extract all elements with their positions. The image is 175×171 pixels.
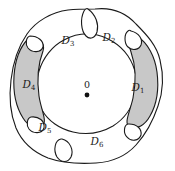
region-label-D6-subscript: 6 bbox=[99, 141, 104, 149]
region-ring-diagram: 0 D1 D2 D3 D4 D5 D6 bbox=[0, 0, 175, 171]
region-label-D4-subscript: 4 bbox=[31, 84, 36, 92]
region-label-D2-subscript: 2 bbox=[111, 37, 115, 45]
region-label-D1-subscript: 1 bbox=[140, 87, 144, 95]
center-dot-marker bbox=[85, 93, 90, 98]
region-label-D3-subscript: 3 bbox=[70, 40, 74, 48]
center-origin-label: 0 bbox=[84, 79, 90, 90]
figure-container: 0 D1 D2 D3 D4 D5 D6 bbox=[0, 0, 175, 171]
region-label-D5-subscript: 5 bbox=[47, 127, 51, 135]
